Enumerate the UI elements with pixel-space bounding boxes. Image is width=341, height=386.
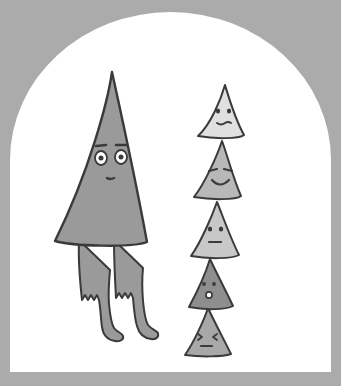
triangle-3-eye-right-icon bbox=[219, 226, 223, 231]
triangle-4-eye-left-icon bbox=[202, 282, 206, 286]
pupil-right-icon bbox=[119, 155, 124, 160]
eyebrow-left-icon bbox=[96, 145, 106, 146]
triangle-1-eye-right-icon bbox=[227, 109, 231, 114]
mouth-icon bbox=[107, 178, 114, 179]
illustration-scene: Tall triangle person beside a stack of f… bbox=[0, 0, 341, 386]
triangle-4-eye-right-icon bbox=[212, 282, 216, 286]
arch-frame bbox=[10, 12, 331, 372]
triangle-3-eye-left-icon bbox=[208, 226, 212, 231]
triangle-people-illustration bbox=[0, 0, 341, 386]
triangle-4-mouth-icon bbox=[206, 292, 212, 298]
pupil-left-icon bbox=[99, 156, 104, 161]
triangle-1-eye-left-icon bbox=[216, 109, 220, 114]
